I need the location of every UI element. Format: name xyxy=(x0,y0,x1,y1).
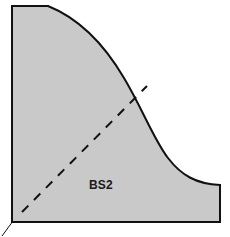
corner-tick-mark xyxy=(2,221,13,236)
profile-shape-fill-outline xyxy=(12,6,220,222)
profile-label: BS2 xyxy=(89,178,113,192)
diagram-canvas: BS2 xyxy=(0,0,230,237)
profile-cross-section-svg xyxy=(0,0,230,237)
